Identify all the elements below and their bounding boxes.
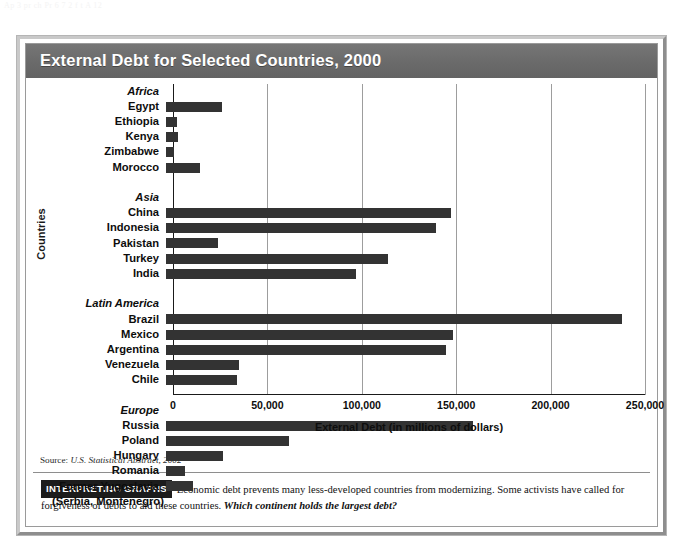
bar-row: Venezuela [52, 357, 645, 372]
bar [166, 117, 177, 127]
y-axis-title-label: Countries [35, 209, 47, 260]
row-track [166, 357, 645, 372]
bar [166, 345, 446, 355]
row-label: Kenya [52, 131, 166, 143]
row-track [166, 236, 645, 251]
spacer-row [52, 281, 645, 296]
bar-rows: AfricaEgyptEthiopiaKenyaZimbabweMoroccoA… [52, 84, 645, 395]
row-track [166, 266, 645, 281]
bar-row: Former Yugoslavia [52, 479, 645, 494]
row-label: Hungary [52, 450, 166, 462]
bar [166, 436, 289, 446]
spacer-row: (Serbia, Montenegro) [52, 494, 645, 509]
row-label: India [52, 268, 166, 280]
row-label: Morocco [52, 162, 166, 174]
row-label: Chile [52, 374, 166, 386]
row-track [166, 175, 645, 190]
row-label: Asia [52, 192, 166, 204]
bar-row: Indonesia [52, 221, 645, 236]
row-track [166, 464, 645, 479]
row-track [166, 342, 645, 357]
row-track [166, 281, 645, 296]
x-axis-baseline [173, 394, 645, 395]
bar-row: Argentina [52, 342, 645, 357]
row-track [166, 130, 645, 145]
row-track [166, 160, 645, 175]
bar [166, 451, 223, 461]
row-label: Romania [52, 465, 166, 477]
row-track [166, 206, 645, 221]
bar-row: Romania [52, 464, 645, 479]
row-track [166, 297, 645, 312]
row-track [166, 190, 645, 205]
bar [166, 314, 622, 324]
row-label: Former Yugoslavia [52, 481, 166, 493]
figure-title: External Debt for Selected Countries, 20… [26, 44, 657, 78]
x-tick-label-200000: 200,000 [531, 399, 569, 411]
row-track [166, 99, 645, 114]
x-tick-label-0: 0 [170, 399, 176, 411]
bar [166, 360, 239, 370]
row-track [166, 433, 645, 448]
bar [166, 466, 185, 476]
bar [166, 269, 356, 279]
row-label: Poland [52, 435, 166, 447]
group-header-row: Africa [52, 84, 645, 99]
row-track [166, 449, 645, 464]
row-track [166, 373, 645, 388]
bar-row: Poland [52, 433, 645, 448]
row-label: (Serbia, Montenegro) [52, 496, 166, 508]
bar-row: Egypt [52, 99, 645, 114]
x-tick-label-150000: 150,000 [437, 399, 475, 411]
figure-inner: External Debt for Selected Countries, 20… [25, 43, 658, 527]
bar [166, 254, 388, 264]
row-track [166, 114, 645, 129]
row-label: Brazil [52, 314, 166, 326]
row-label: China [52, 207, 166, 219]
row-label: Mexico [52, 329, 166, 341]
row-track [166, 494, 645, 509]
row-label: Ethiopia [52, 116, 166, 128]
spacer-row [52, 175, 645, 190]
row-label: Pakistan [52, 238, 166, 250]
plot-area: AfricaEgyptEthiopiaKenyaZimbabweMoroccoA… [52, 84, 645, 443]
bar [166, 481, 193, 491]
row-label: Indonesia [52, 222, 166, 234]
row-track [166, 251, 645, 266]
x-axis-title: External Debt (in millions of dollars) [173, 421, 645, 433]
bar-row: Zimbabwe [52, 145, 645, 160]
x-tick-label-100000: 100,000 [343, 399, 381, 411]
group-header-row: Latin America [52, 297, 645, 312]
bar-row: India [52, 266, 645, 281]
row-label: Turkey [52, 253, 166, 265]
row-label: Latin America [52, 298, 166, 310]
bar-row: Ethiopia [52, 114, 645, 129]
page-residue-text: Ap 3 pr ch Pr 6 7 2 f t A 12 [4, 1, 102, 10]
row-label: Russia [52, 420, 166, 432]
row-track [166, 145, 645, 160]
row-label: Africa [52, 86, 166, 98]
y-axis-title: Countries [32, 78, 50, 391]
group-header-row: Asia [52, 190, 645, 205]
row-track [166, 327, 645, 342]
bar-row: Turkey [52, 251, 645, 266]
bar-row: Kenya [52, 130, 645, 145]
bar [166, 238, 218, 248]
row-label: Venezuela [52, 359, 166, 371]
row-label: Argentina [52, 344, 166, 356]
row-track [166, 221, 645, 236]
row-track [166, 84, 645, 99]
gridline-250000 [645, 84, 646, 395]
bar-row: Chile [52, 373, 645, 388]
bar-row: Hungary [52, 449, 645, 464]
bar [166, 163, 200, 173]
figure-frame: External Debt for Selected Countries, 20… [17, 36, 666, 535]
bar [166, 208, 451, 218]
row-track [166, 479, 645, 494]
bar-row: Mexico [52, 327, 645, 342]
bar [166, 223, 436, 233]
row-label: Zimbabwe [52, 146, 166, 158]
row-label: Europe [52, 405, 166, 417]
bar-row: Brazil [52, 312, 645, 327]
x-tick-label-50000: 50,000 [251, 399, 283, 411]
